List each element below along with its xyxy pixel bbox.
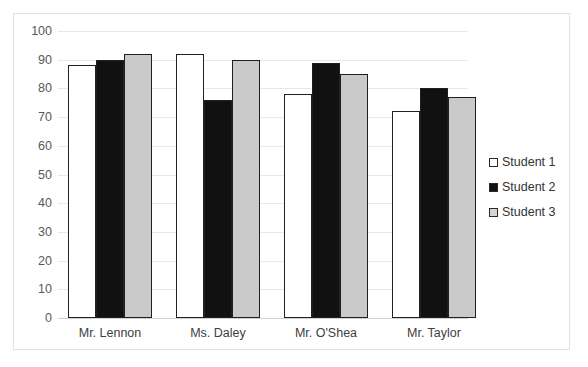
plot-area bbox=[58, 31, 468, 318]
bar bbox=[284, 94, 312, 318]
bar bbox=[124, 54, 152, 318]
x-axis-tick-label: Ms. Daley bbox=[164, 324, 272, 342]
legend-item[interactable]: Student 3 bbox=[489, 200, 565, 225]
bar bbox=[232, 60, 260, 318]
chart-legend: Student 1Student 2Student 3 bbox=[489, 150, 565, 225]
bar bbox=[68, 65, 96, 318]
legend-item-label: Student 1 bbox=[502, 156, 556, 169]
x-axis-tick-label: Mr. Taylor bbox=[380, 324, 488, 342]
bar bbox=[176, 54, 204, 318]
y-axis-tick-label: 60 bbox=[12, 140, 52, 153]
bar bbox=[392, 111, 420, 318]
y-axis-tick-label: 10 bbox=[12, 283, 52, 296]
x-axis-tick-label: Mr. Lennon bbox=[56, 324, 164, 342]
bar bbox=[312, 63, 340, 318]
legend-item-label: Student 2 bbox=[502, 181, 556, 194]
bar-chart: 0102030405060708090100 Mr. LennonMs. Dal… bbox=[0, 0, 588, 367]
bar bbox=[448, 97, 476, 318]
y-axis-tick-label: 40 bbox=[12, 197, 52, 210]
bar bbox=[96, 60, 124, 318]
y-axis: 0102030405060708090100 bbox=[8, 31, 52, 318]
y-axis-tick-label: 100 bbox=[12, 25, 52, 38]
white-square-icon bbox=[489, 158, 498, 167]
gridline bbox=[58, 31, 468, 32]
gray-square-icon bbox=[489, 208, 498, 217]
y-axis-tick-label: 80 bbox=[12, 82, 52, 95]
legend-item[interactable]: Student 1 bbox=[489, 150, 565, 175]
legend-item[interactable]: Student 2 bbox=[489, 175, 565, 200]
bar bbox=[420, 88, 448, 318]
y-axis-tick-label: 50 bbox=[12, 168, 52, 181]
y-axis-tick-label: 0 bbox=[12, 312, 52, 325]
y-axis-tick-label: 20 bbox=[12, 254, 52, 267]
y-axis-tick-label: 30 bbox=[12, 226, 52, 239]
y-axis-tick-label: 90 bbox=[12, 53, 52, 66]
gridline bbox=[58, 318, 468, 319]
legend-item-label: Student 3 bbox=[502, 206, 556, 219]
bar bbox=[340, 74, 368, 318]
x-axis-tick-label: Mr. O'Shea bbox=[272, 324, 380, 342]
black-square-icon bbox=[489, 183, 498, 192]
bar bbox=[204, 100, 232, 318]
y-axis-tick-label: 70 bbox=[12, 111, 52, 124]
x-axis: Mr. LennonMs. DaleyMr. O'SheaMr. Taylor bbox=[58, 324, 468, 346]
